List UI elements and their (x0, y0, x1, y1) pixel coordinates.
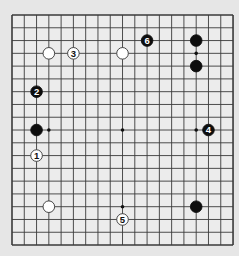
white-stone[interactable] (43, 48, 55, 60)
black-stone-icon (190, 35, 202, 47)
black-stone[interactable] (31, 124, 43, 136)
star-point-icon (194, 52, 198, 56)
move-number-label: 4 (206, 124, 212, 135)
black-stone-icon (31, 124, 43, 136)
star-point-icon (194, 128, 198, 132)
white-stone-move-3[interactable]: 3 (68, 48, 80, 60)
black-stone[interactable] (190, 35, 202, 47)
go-board[interactable]: 135246 (0, 0, 239, 256)
star-point-icon (47, 128, 51, 132)
move-number-label: 1 (34, 150, 40, 161)
white-stone-move-1[interactable]: 1 (31, 150, 43, 162)
move-number-label: 6 (144, 35, 149, 46)
white-stone-icon (43, 48, 55, 60)
move-number-label: 3 (71, 48, 76, 59)
move-number-label: 2 (34, 86, 39, 97)
star-point-icon (121, 205, 125, 209)
white-stone[interactable] (117, 48, 129, 60)
black-stone-icon (190, 201, 202, 213)
black-stone[interactable] (190, 60, 202, 72)
white-stone-icon (117, 48, 129, 60)
black-stone[interactable] (190, 201, 202, 213)
white-stone[interactable] (43, 201, 55, 213)
white-stone-icon (43, 201, 55, 213)
white-stone-move-5[interactable]: 5 (117, 214, 129, 226)
black-stone-move-4[interactable]: 4 (203, 124, 215, 136)
black-stone-move-2[interactable]: 2 (31, 86, 43, 98)
go-board-svg[interactable]: 135246 (0, 0, 239, 256)
move-number-label: 5 (120, 214, 126, 225)
black-stone-move-6[interactable]: 6 (141, 35, 153, 47)
black-stone-icon (190, 60, 202, 72)
star-point-icon (121, 128, 125, 132)
